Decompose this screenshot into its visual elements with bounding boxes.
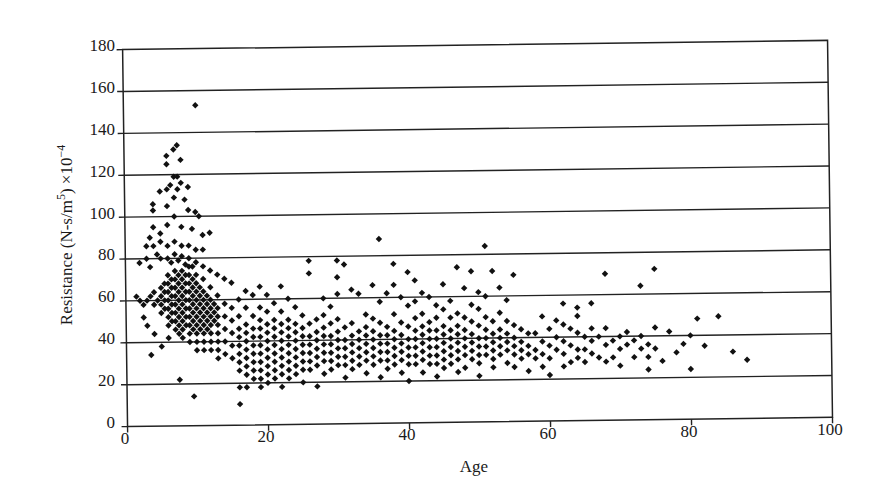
data-point-diamond: [560, 338, 566, 344]
data-point-diamond: [264, 329, 270, 335]
data-point-diamond: [271, 325, 277, 331]
data-point-diamond: [250, 342, 256, 348]
data-point-diamond: [596, 333, 602, 339]
x-tick-label: 100: [817, 420, 843, 439]
data-point-diamond: [243, 363, 249, 369]
data-point-diamond: [377, 340, 383, 346]
data-point-diamond: [448, 344, 454, 350]
data-point-diamond: [687, 332, 693, 338]
data-point-diamond: [405, 302, 411, 308]
data-point-diamond: [476, 373, 482, 379]
data-point-diamond: [370, 353, 376, 359]
y-tick-label: 120: [90, 162, 116, 181]
data-point-diamond: [376, 236, 382, 242]
data-point-diamond: [441, 365, 447, 371]
data-point-diamond: [603, 342, 609, 348]
data-point-diamond: [363, 370, 369, 376]
data-point-diamond: [206, 230, 212, 236]
data-point-diamond: [299, 312, 305, 318]
data-point-diamond: [419, 311, 425, 317]
data-point-diamond: [631, 354, 637, 360]
data-point-diamond: [147, 235, 153, 241]
data-point-diamond: [237, 401, 243, 407]
data-point-diamond: [468, 302, 474, 308]
data-point-diamond: [200, 276, 206, 282]
data-point-diamond: [363, 332, 369, 338]
data-point-diamond: [321, 350, 327, 356]
data-point-diamond: [185, 242, 191, 248]
data-point-diamond: [440, 281, 446, 287]
data-point-diamond: [440, 340, 446, 346]
data-point-diamond: [174, 186, 180, 192]
data-point-diamond: [441, 348, 447, 354]
data-point-diamond: [243, 346, 249, 352]
data-point-diamond: [299, 325, 305, 331]
data-point-diamond: [489, 268, 495, 274]
data-point-diamond: [321, 333, 327, 339]
y-tick-label: 20: [98, 371, 115, 390]
data-point-diamond: [454, 264, 460, 270]
data-point-diamond: [384, 324, 390, 330]
data-point-diamond: [229, 305, 235, 311]
data-point-diamond: [462, 344, 468, 350]
data-point-diamond: [243, 355, 249, 361]
data-point-diamond: [454, 331, 460, 337]
data-point-diamond: [420, 369, 426, 375]
data-point-diamond: [334, 257, 340, 263]
data-point-diamond: [518, 326, 524, 332]
data-point-diamond: [250, 313, 256, 319]
data-point-diamond: [602, 325, 608, 331]
data-point-diamond: [567, 325, 573, 331]
data-point-diamond: [278, 308, 284, 314]
data-point-diamond: [553, 347, 559, 353]
data-point-diamond: [257, 342, 263, 348]
data-point-diamond: [447, 335, 453, 341]
data-point-diamond: [208, 347, 214, 353]
x-tick-label: 60: [540, 424, 557, 443]
data-point-diamond: [181, 196, 187, 202]
data-point-diamond: [645, 366, 651, 372]
data-point-diamond: [582, 359, 588, 365]
data-point-diamond: [553, 334, 559, 340]
data-point-diamond: [483, 343, 489, 349]
data-point-diamond: [243, 372, 249, 378]
data-point-diamond: [307, 341, 313, 347]
data-point-diamond: [546, 355, 552, 361]
data-point-diamond: [335, 354, 341, 360]
data-point-diamond: [475, 289, 481, 295]
data-point-diamond: [651, 266, 657, 272]
data-point-diamond: [243, 330, 249, 336]
data-point-diamond: [178, 180, 184, 186]
gridline: [125, 208, 830, 217]
data-point-diamond: [560, 300, 566, 306]
data-point-diamond: [328, 358, 334, 364]
data-point-diamond: [243, 304, 249, 310]
data-point-diamond: [539, 351, 545, 357]
data-point-diamond: [143, 256, 149, 262]
y-tick-label: 100: [90, 204, 116, 223]
data-point-diamond: [192, 246, 198, 252]
data-point-diamond: [490, 318, 496, 324]
data-point-diamond: [434, 373, 440, 379]
data-point-diamond: [314, 337, 320, 343]
data-point-diamond: [391, 344, 397, 350]
data-point-diamond: [434, 361, 440, 367]
data-point-diamond: [568, 359, 574, 365]
data-point-diamond: [335, 337, 341, 343]
data-point-diamond: [406, 361, 412, 367]
data-point-diamond: [328, 349, 334, 355]
data-point-diamond: [461, 327, 467, 333]
data-point-diamond: [177, 377, 183, 383]
data-point-diamond: [412, 315, 418, 321]
data-point-diamond: [189, 226, 195, 232]
data-point-diamond: [610, 337, 616, 343]
data-point-diamond: [257, 325, 263, 331]
data-point-diamond: [278, 346, 284, 352]
data-point-diamond: [150, 207, 156, 213]
data-point-diamond: [355, 290, 361, 296]
data-point-diamond: [171, 238, 177, 244]
data-point-diamond: [482, 243, 488, 249]
data-point-diamond: [404, 269, 410, 275]
data-point-diamond: [300, 350, 306, 356]
data-point-diamond: [411, 277, 417, 283]
